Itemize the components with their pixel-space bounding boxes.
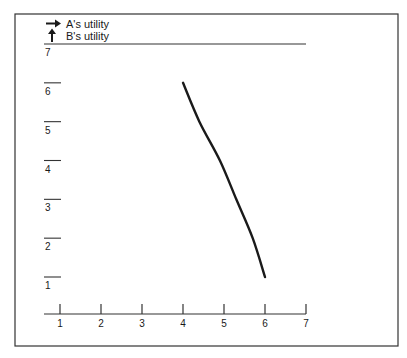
y-tick-1: 1 <box>44 277 61 291</box>
arrow-right-icon <box>46 20 61 28</box>
x-tick-label: 4 <box>180 318 186 329</box>
arrow-up-icon <box>48 29 56 43</box>
chart-canvas: A's utility B's utility 1234567 1234567 <box>0 0 407 358</box>
x-tick-4: 4 <box>180 304 186 329</box>
x-tick-6: 6 <box>262 304 268 329</box>
y-tick-label: 3 <box>45 202 51 213</box>
figure-frame <box>15 14 398 346</box>
y-axis: 1234567 <box>44 44 306 291</box>
legend-item-a: A's utility <box>46 18 110 30</box>
legend-label-b: B's utility <box>66 30 110 42</box>
x-axis: 1234567 <box>44 304 309 329</box>
chart-figure: A's utility B's utility 1234567 1234567 <box>0 0 407 358</box>
x-tick-label: 5 <box>221 318 227 329</box>
y-tick-5: 5 <box>44 122 61 136</box>
x-tick-7: 7 <box>303 304 309 329</box>
y-tick-2: 2 <box>44 238 61 252</box>
x-tick-label: 3 <box>139 318 145 329</box>
x-tick-label: 7 <box>303 318 309 329</box>
y-tick-label: 1 <box>45 280 51 291</box>
x-tick-3: 3 <box>139 304 145 329</box>
x-tick-5: 5 <box>221 304 227 329</box>
y-tick-4: 4 <box>44 161 61 175</box>
y-tick-label: 7 <box>45 47 51 58</box>
legend: A's utility B's utility <box>46 18 110 42</box>
y-tick-3: 3 <box>44 199 61 213</box>
y-tick-label: 6 <box>45 86 51 97</box>
series-layer <box>183 83 265 277</box>
legend-item-b: B's utility <box>48 29 110 43</box>
y-tick-7: 7 <box>44 44 306 58</box>
x-tick-1: 1 <box>57 304 63 329</box>
x-tick-label: 6 <box>262 318 268 329</box>
x-tick-label: 2 <box>98 318 104 329</box>
utility-frontier-curve <box>183 83 265 277</box>
y-tick-6: 6 <box>44 83 61 97</box>
y-tick-label: 4 <box>45 164 51 175</box>
x-tick-2: 2 <box>98 304 104 329</box>
legend-label-a: A's utility <box>66 18 110 30</box>
x-tick-label: 1 <box>57 318 63 329</box>
y-tick-label: 5 <box>45 125 51 136</box>
y-tick-label: 2 <box>45 241 51 252</box>
